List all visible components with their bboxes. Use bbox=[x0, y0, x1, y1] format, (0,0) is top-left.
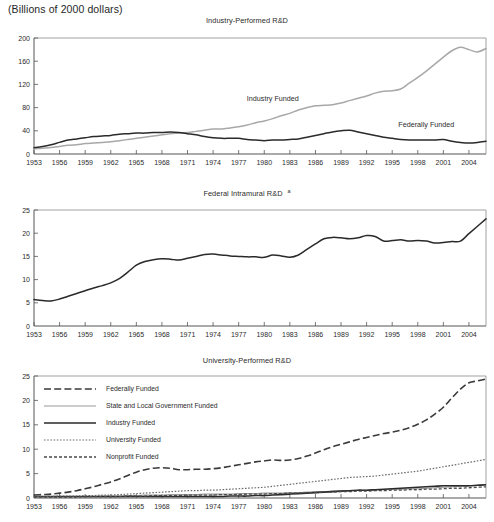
x-tick-label: 1995 bbox=[384, 331, 400, 338]
x-tick-label: 2001 bbox=[436, 331, 452, 338]
x-tick-label: 1995 bbox=[384, 503, 400, 510]
series-inline-label: Industry Funded bbox=[247, 94, 299, 103]
x-tick-label: 1971 bbox=[180, 503, 196, 510]
x-tick-label: 2004 bbox=[461, 159, 477, 166]
y-tick-label: 40 bbox=[22, 127, 30, 134]
legend-label: Industry Funded bbox=[106, 419, 155, 427]
y-tick-label: 120 bbox=[18, 81, 30, 88]
x-tick-label: 2001 bbox=[436, 503, 452, 510]
figure-page: (Billions of 2000 dollars) Industry-Perf… bbox=[0, 0, 494, 522]
plot-federal-intramural: 0510152025195319561959196219651968197119… bbox=[0, 188, 494, 348]
plot-industry-performed: 0408012016020019531956195919621965196819… bbox=[0, 16, 494, 176]
y-tick-label: 160 bbox=[18, 58, 30, 65]
x-tick-label: 1956 bbox=[52, 159, 68, 166]
x-tick-label: 1986 bbox=[308, 503, 324, 510]
x-tick-label: 1965 bbox=[129, 159, 145, 166]
y-tick-label: 200 bbox=[18, 35, 30, 42]
y-tick-label: 20 bbox=[22, 397, 30, 404]
y-tick-label: 25 bbox=[22, 373, 30, 380]
y-tick-label: 80 bbox=[22, 104, 30, 111]
x-tick-label: 1977 bbox=[231, 503, 247, 510]
y-tick-label: 10 bbox=[22, 276, 30, 283]
y-tick-label: 15 bbox=[22, 253, 30, 260]
x-tick-label: 1980 bbox=[256, 503, 272, 510]
x-tick-label: 1989 bbox=[333, 503, 349, 510]
x-tick-label: 1962 bbox=[103, 503, 119, 510]
x-tick-label: 1986 bbox=[308, 159, 324, 166]
series-line bbox=[34, 219, 486, 301]
x-tick-label: 1968 bbox=[154, 159, 170, 166]
x-tick-label: 1977 bbox=[231, 159, 247, 166]
x-tick-label: 1965 bbox=[129, 503, 145, 510]
legend-item[interactable]: Industry Funded bbox=[44, 419, 155, 427]
chart-panel-industry-performed: Industry-Performed R&D 04080120160200195… bbox=[0, 16, 494, 176]
legend-item[interactable]: Federally Funded bbox=[44, 385, 159, 393]
x-tick-label: 1983 bbox=[282, 331, 298, 338]
y-tick-label: 5 bbox=[26, 470, 30, 477]
series-inline-label: Federally Funded bbox=[398, 120, 454, 129]
x-tick-label: 1983 bbox=[282, 503, 298, 510]
x-tick-label: 1998 bbox=[410, 159, 426, 166]
y-tick-label: 0 bbox=[26, 495, 30, 502]
x-tick-label: 1977 bbox=[231, 331, 247, 338]
legend-label: State and Local Government Funded bbox=[106, 402, 218, 409]
legend-item[interactable]: State and Local Government Funded bbox=[44, 402, 218, 409]
plot-university-performed: 0510152025195319561959196219651968197119… bbox=[0, 356, 494, 522]
series-line bbox=[34, 459, 486, 496]
y-tick-label: 10 bbox=[22, 446, 30, 453]
chart-panel-university-performed: University-Performed R&D 051015202519531… bbox=[0, 356, 494, 522]
chart-panel-federal-intramural: Federal Intramural R&Da 0510152025195319… bbox=[0, 188, 494, 348]
x-tick-label: 2001 bbox=[436, 159, 452, 166]
x-tick-label: 1992 bbox=[359, 159, 375, 166]
x-tick-label: 1998 bbox=[410, 331, 426, 338]
y-tick-label: 20 bbox=[22, 230, 30, 237]
y-tick-label: 15 bbox=[22, 421, 30, 428]
x-tick-label: 1959 bbox=[77, 331, 93, 338]
x-tick-label: 2004 bbox=[461, 331, 477, 338]
x-tick-label: 1956 bbox=[52, 503, 68, 510]
y-tick-label: 5 bbox=[26, 299, 30, 306]
x-tick-label: 1953 bbox=[26, 331, 42, 338]
x-tick-label: 1974 bbox=[205, 331, 221, 338]
legend-label: Nonprofit Funded bbox=[106, 453, 159, 461]
x-tick-label: 1974 bbox=[205, 159, 221, 166]
y-tick-label: 0 bbox=[26, 323, 30, 330]
x-tick-label: 1971 bbox=[180, 331, 196, 338]
x-tick-label: 1995 bbox=[384, 159, 400, 166]
legend-label: Federally Funded bbox=[106, 385, 159, 393]
x-tick-label: 1965 bbox=[129, 331, 145, 338]
x-tick-label: 1953 bbox=[26, 503, 42, 510]
x-tick-label: 2004 bbox=[461, 503, 477, 510]
legend-item[interactable]: University Funded bbox=[44, 436, 161, 444]
x-tick-label: 1986 bbox=[308, 331, 324, 338]
x-tick-label: 1962 bbox=[103, 159, 119, 166]
series-line bbox=[34, 130, 486, 147]
legend-item[interactable]: Nonprofit Funded bbox=[44, 453, 159, 461]
x-tick-label: 1980 bbox=[256, 159, 272, 166]
x-tick-label: 1980 bbox=[256, 331, 272, 338]
x-tick-label: 1959 bbox=[77, 159, 93, 166]
series-line bbox=[34, 379, 486, 495]
x-tick-label: 1992 bbox=[359, 331, 375, 338]
x-tick-label: 1962 bbox=[103, 331, 119, 338]
x-tick-label: 1953 bbox=[26, 159, 42, 166]
units-note: (Billions of 2000 dollars) bbox=[8, 3, 123, 15]
x-tick-label: 1971 bbox=[180, 159, 196, 166]
x-tick-label: 1968 bbox=[154, 331, 170, 338]
x-tick-label: 1989 bbox=[333, 331, 349, 338]
y-tick-label: 0 bbox=[26, 151, 30, 158]
x-tick-label: 1968 bbox=[154, 503, 170, 510]
y-tick-label: 25 bbox=[22, 207, 30, 214]
x-tick-label: 1959 bbox=[77, 503, 93, 510]
x-tick-label: 1974 bbox=[205, 503, 221, 510]
x-tick-label: 1989 bbox=[333, 159, 349, 166]
legend-label: University Funded bbox=[106, 436, 161, 444]
x-tick-label: 1992 bbox=[359, 503, 375, 510]
x-tick-label: 1983 bbox=[282, 159, 298, 166]
x-tick-label: 1956 bbox=[52, 331, 68, 338]
x-tick-label: 1998 bbox=[410, 503, 426, 510]
